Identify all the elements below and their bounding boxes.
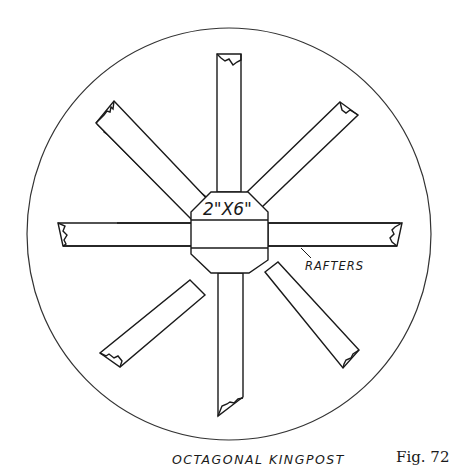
rafters-label: RAFTERS	[305, 259, 364, 273]
diagram-title: OCTAGONAL KINGPOST	[172, 452, 345, 467]
rafter-south-body	[218, 273, 243, 416]
rafter-west-body	[58, 223, 192, 246]
rafter-east-body	[268, 223, 402, 246]
rafter-north-body	[217, 54, 241, 192]
octagonal-kingpost-diagram: 2"X6" RAFTERS	[0, 0, 455, 475]
rafter-southwest-body	[100, 280, 205, 367]
rafter-northeast-body	[247, 102, 358, 207]
center-dimension-label: 2"X6"	[203, 199, 252, 219]
rafter-northwest-body	[96, 101, 211, 221]
rafter-southeast-body	[265, 262, 359, 368]
figure-number: Fig. 72	[396, 448, 449, 466]
rafters-leader-line	[301, 248, 311, 258]
